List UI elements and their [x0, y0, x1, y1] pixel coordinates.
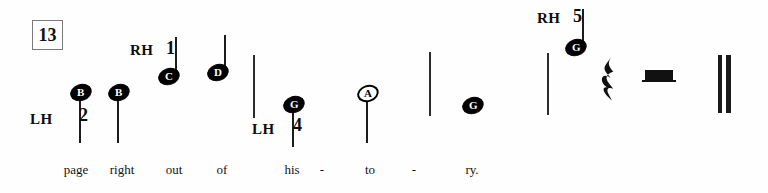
barline — [547, 53, 549, 115]
note-stem — [117, 96, 119, 143]
finger-number: 1 — [166, 39, 175, 57]
finger-number: 5 — [573, 7, 582, 25]
lyric-syllable: page — [64, 163, 89, 176]
lyric-syllable: of — [217, 163, 228, 176]
notehead-g: G — [460, 94, 486, 117]
notehead-letter: C — [165, 71, 173, 82]
lyric-syllable: ry. — [465, 163, 478, 176]
notehead-a: A — [355, 82, 381, 105]
notehead-letter: B — [77, 87, 84, 98]
notehead-letter: G — [290, 99, 299, 110]
notehead-letter: G — [572, 42, 581, 53]
notehead-g: G — [281, 93, 307, 116]
hand-label-lh: LH — [30, 112, 53, 127]
notehead-letter: D — [214, 67, 222, 78]
barline — [253, 55, 255, 118]
lyric-syllable: his — [284, 163, 299, 176]
barline — [429, 52, 431, 116]
half-rest-icon — [645, 70, 673, 80]
notehead-g: G — [563, 36, 589, 59]
note-stem — [366, 97, 368, 143]
lyric-syllable: to — [365, 163, 375, 176]
finger-number: 4 — [293, 116, 302, 134]
hand-label-lh: LH — [252, 122, 275, 137]
finger-number: 2 — [79, 106, 88, 124]
notehead-letter: A — [364, 88, 372, 99]
notehead-c: C — [156, 65, 182, 88]
music-score-system: 13 BBCDGAGG LH2RH1LH4RH5 pagerightoutofh… — [0, 0, 768, 193]
lyric-hyphen: - — [412, 163, 416, 176]
measure-number-box: 13 — [32, 20, 63, 50]
notehead-d: D — [205, 61, 231, 84]
lyric-syllable: out — [166, 163, 183, 176]
notehead-b: B — [106, 81, 132, 104]
hand-label-rh: RH — [537, 11, 561, 26]
notehead-letter: G — [469, 100, 478, 111]
measure-number-text: 13 — [39, 26, 57, 44]
quarter-rest-icon — [598, 55, 620, 103]
notehead-letter: B — [115, 87, 122, 98]
hand-label-rh: RH — [130, 43, 154, 58]
final-barline — [718, 55, 732, 113]
notehead-b: B — [68, 81, 94, 104]
lyric-syllable: right — [110, 163, 135, 176]
lyric-hyphen: - — [320, 163, 324, 176]
